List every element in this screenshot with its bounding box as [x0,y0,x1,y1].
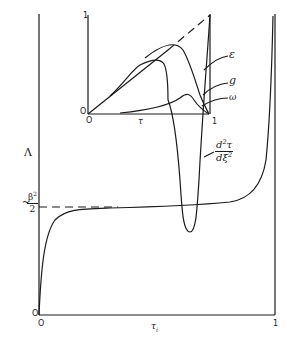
y-origin-tick: O [32,310,38,318]
y-axis-label-lambda: Λ [24,147,32,158]
label-omega: ω [229,93,236,102]
x-end-tick: 1 [273,320,278,328]
inset-x-origin-tick: O [86,117,92,125]
inset-x-axis-label-tau: τ [138,118,143,126]
inset-curve-omega [120,94,209,114]
label-g: g [229,75,236,86]
x-axis-label-tau-i: τi [151,322,158,333]
leader-omega [202,98,228,106]
d2-denominator-exponent: 2 [228,151,232,159]
lambda-curve [39,16,273,315]
leader-g [203,83,228,95]
leader-d2tau [204,152,214,157]
figure: Λ ~ β2 2 O O 1 τi 1 O O τ 1 ε g ω d2τ dξ… [0,0,288,338]
leader-epsilon [204,56,228,70]
x-origin-tick: O [38,320,44,328]
inset-x-end-tick: 1 [212,118,217,126]
inset-y-top-tick: 1 [83,12,88,20]
asymptote-denominator: 2 [27,204,38,214]
plot-canvas [0,0,288,338]
inset-curve-epsilon [145,45,209,114]
tau-subscript: i [156,326,158,333]
second-derivative-curve [168,15,210,232]
beta-exponent: 2 [33,191,37,197]
asymptote-label: β2 2 [27,193,38,214]
inset-y-origin-tick: O [80,108,86,116]
label-epsilon: ε [229,49,235,60]
second-derivative-label: d2τ dξ2 [215,140,233,163]
d2-numerator-tau: τ [227,139,233,150]
inset-curve-g [110,60,168,100]
d2-denominator: dξ [216,152,228,163]
